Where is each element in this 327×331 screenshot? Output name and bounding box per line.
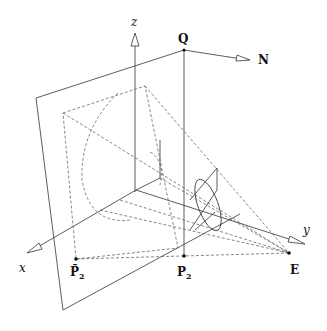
- z-axis-label: z: [131, 16, 137, 28]
- projection-plane: [36, 50, 184, 98]
- point-e-label: E: [290, 264, 299, 276]
- point-q-label: Q: [178, 33, 188, 45]
- point-p2-label: P2: [177, 266, 192, 280]
- image-rect: [63, 86, 178, 259]
- p2-letter: P: [177, 265, 186, 279]
- point-p2bar-label: P̄2: [70, 266, 85, 280]
- x-axis-label: x: [19, 262, 26, 274]
- diagram-svg: [0, 0, 327, 331]
- lens-frame: [190, 168, 217, 230]
- p2bar-subscript: 2: [79, 271, 85, 281]
- diagram-canvas: z Q N y x E P2 P̄2: [0, 0, 327, 331]
- point-n-label: N: [258, 54, 269, 66]
- lens-circle: [189, 176, 226, 234]
- y-axis: [136, 190, 292, 240]
- x-axis: [36, 190, 136, 248]
- p2-subscript: 2: [186, 271, 192, 281]
- y-axis-label: y: [303, 224, 310, 236]
- p2bar-letter: P̄: [70, 265, 79, 279]
